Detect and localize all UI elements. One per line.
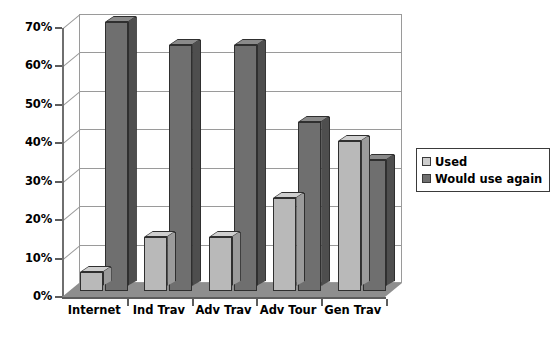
bar-internet-used <box>80 272 103 291</box>
bar-side-face <box>167 232 176 286</box>
bar-side-face <box>128 17 137 286</box>
bar-adv-tour-used <box>273 198 296 290</box>
bar-adv-trav-used <box>209 237 232 291</box>
bar-front-face <box>338 141 361 291</box>
y-tick-50% <box>55 104 62 106</box>
y-axis-label-30%: 30% <box>0 174 52 188</box>
y-axis-label-0%: 0% <box>0 289 52 303</box>
bar-side-face <box>361 136 370 286</box>
bar-front-face <box>273 198 296 290</box>
bar-front-face <box>144 237 167 291</box>
bar-side-face <box>296 193 305 285</box>
x-axis-label-gen-trav: Gen Trav <box>303 303 403 317</box>
legend-item-would-use-again[interactable]: Would use again <box>422 171 542 186</box>
y-axis-label-70%: 70% <box>0 20 52 34</box>
bar-side-face <box>386 155 395 286</box>
bar-front-face <box>209 237 232 291</box>
bar-side-face <box>257 40 266 286</box>
y-tick-0% <box>55 296 62 298</box>
y-tick-20% <box>55 219 62 221</box>
y-tick-10% <box>55 258 62 260</box>
y-tick-70% <box>55 27 62 29</box>
bar-front-face <box>80 272 103 291</box>
y-axis-label-60%: 60% <box>0 58 52 72</box>
bar-side-face <box>232 232 241 286</box>
y-tick-40% <box>55 142 62 144</box>
y-axis-label-10%: 10% <box>0 251 52 265</box>
bar-ind-trav-used <box>144 237 167 291</box>
legend-label-would-use-again: Would use again <box>435 172 542 186</box>
bar-internet-would-use-again <box>105 22 128 291</box>
bar-front-face <box>105 22 128 291</box>
y-tick-30% <box>55 181 62 183</box>
legend-item-used[interactable]: Used <box>422 154 542 169</box>
legend-swatch-used-icon <box>422 157 431 166</box>
chart-legend: Used Would use again <box>416 148 550 192</box>
plot-area: 0%10%20%30%40%50%60%70% <box>62 14 402 297</box>
y-axis-label-20%: 20% <box>0 212 52 226</box>
bar-series-group <box>62 14 402 297</box>
y-axis-label-50%: 50% <box>0 97 52 111</box>
legend-label-used: Used <box>435 155 467 169</box>
x-axis-line <box>62 297 386 299</box>
y-tick-60% <box>55 65 62 67</box>
bar-side-face <box>321 117 330 286</box>
bar-side-face <box>192 40 201 286</box>
bar-gen-trav-used <box>338 141 361 291</box>
y-axis-label-40%: 40% <box>0 135 52 149</box>
legend-swatch-would-use-again-icon <box>422 174 431 183</box>
